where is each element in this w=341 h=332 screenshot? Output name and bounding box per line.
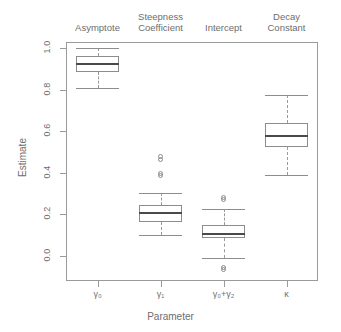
group-header: Decay Constant xyxy=(267,12,305,33)
x-tick-label: κ xyxy=(284,289,289,299)
group-header: Intercept xyxy=(205,23,242,34)
median-line xyxy=(265,135,308,137)
group-header: Steepness Coefficient xyxy=(138,12,183,33)
group-header: Asymptote xyxy=(75,23,120,34)
x-tick-label: γ₀+γ₂ xyxy=(213,289,235,299)
x-tick-label: γ₁ xyxy=(157,289,165,299)
x-tick-mark xyxy=(98,281,99,287)
boxplot-figure: Estimate 0.00.20.40.60.81.0 AsymptoteSte… xyxy=(0,0,341,332)
boxplot-4 xyxy=(0,0,341,332)
cap-lower xyxy=(265,175,308,176)
whisker-upper xyxy=(287,95,288,123)
x-tick-label: γ₀ xyxy=(93,289,101,299)
x-axis-title: Parameter xyxy=(0,311,341,322)
x-tick-mark xyxy=(224,281,225,287)
cap-upper xyxy=(265,95,308,96)
whisker-lower xyxy=(287,147,288,175)
x-tick-mark xyxy=(287,281,288,287)
x-tick-mark xyxy=(161,281,162,287)
